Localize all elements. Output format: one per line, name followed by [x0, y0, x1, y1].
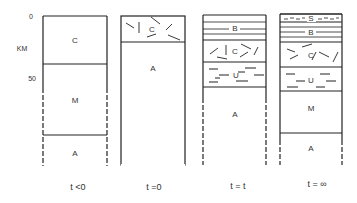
layer-label-m: M [308, 104, 315, 113]
time-label-t-less-than-0: t <0 [70, 182, 85, 192]
axis-tick-50: 50 [28, 75, 36, 82]
time-label-t-equals-infinity: t = ∞ [307, 179, 326, 189]
column-t-equals-t: B C U A [203, 15, 266, 165]
layer-label-c: C [308, 51, 314, 60]
layer-label-u: U [308, 76, 314, 85]
layer-label-b: B [308, 28, 313, 37]
axis-unit-label: KM [17, 45, 28, 52]
layer-label-c: C [72, 36, 78, 45]
column-t-equals-0: C A [121, 16, 185, 165]
layer-label-s: S [308, 14, 313, 23]
time-label-t-equals-0: t =0 [146, 182, 161, 192]
layer-label-c: C [149, 25, 155, 34]
column-t-equals-infinity: S B C U M A [280, 14, 342, 165]
layer-label-a: A [308, 144, 314, 153]
layer-label-m: M [72, 96, 79, 105]
layer-label-c: C [232, 47, 238, 56]
axis-tick-0: 0 [29, 13, 33, 20]
time-label-t-equals-t: t = t [230, 181, 246, 191]
layer-label-a: A [72, 149, 78, 158]
layer-label-u: U [233, 71, 239, 80]
layer-label-a: A [232, 110, 238, 119]
column-t-less-than-0: C M A [43, 16, 107, 166]
layer-label-a: A [150, 64, 156, 73]
layer-label-b: B [232, 24, 237, 33]
stratigraphic-columns-diagram: 0 KM 50 C M A C A [0, 0, 357, 203]
